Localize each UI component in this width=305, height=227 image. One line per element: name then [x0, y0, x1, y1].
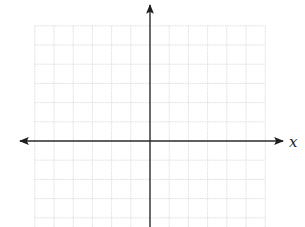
x-axis-label: x: [289, 133, 298, 151]
coordinate-plane: x: [0, 0, 305, 227]
